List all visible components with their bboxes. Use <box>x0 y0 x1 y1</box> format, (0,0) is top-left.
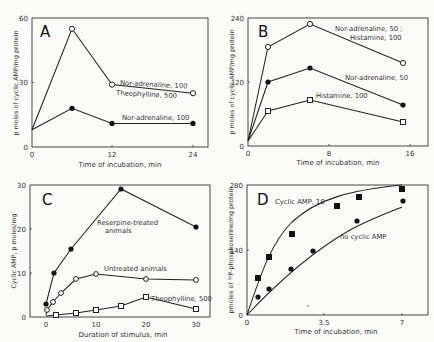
panel-b-xtick: 0 <box>246 150 250 158</box>
panel-b-xtick: 16 <box>406 150 415 158</box>
panel-c-xtick: 20 <box>142 321 151 329</box>
panel-d-ytick: 0 <box>239 312 243 320</box>
panel-c-annotation: Reserpine-treated <box>97 219 158 227</box>
panel-c-ytick: 10 <box>17 270 26 278</box>
panel-a-ylabel: p moles of cyclic AMP/mg protein <box>12 31 20 136</box>
panel-d-annotation: Cyclic AMP, 10 <box>275 198 325 206</box>
panel-c-letter: C <box>42 191 52 209</box>
figure: A 0 30 60 0 12 24 Time of incubation, mi… <box>0 0 434 342</box>
panel-c-series-reserpine <box>46 189 196 304</box>
panel-b-ytick: 0 <box>240 143 244 151</box>
panel-c-ytick: 0 <box>22 314 26 322</box>
panel-d-ylabel: pmoles of ³²P-phosphoserine/mg protein <box>227 187 235 314</box>
panel-c: C 0 10 20 30 0 10 20 30 Duration of stim… <box>10 182 212 339</box>
panel-d-series-no-cyclic-amp <box>247 207 402 315</box>
panel-a-ytick: 30 <box>19 79 28 87</box>
panel-c-xtick: 30 <box>192 321 201 329</box>
panel-a-xtick: 24 <box>189 151 198 159</box>
panel-a-annotation: Nor-adrenaline, 100 <box>122 114 189 122</box>
panel-b-ytick: 240 <box>231 15 244 23</box>
panel-c-annotation: Theophylline, 500 <box>150 295 212 303</box>
panel-d-letter: D <box>257 191 269 209</box>
panel-d-xtick: 7 <box>400 319 404 327</box>
panel-b-ylabel: p moles of cyclic AMP/mg protein <box>228 30 236 135</box>
panel-b-xtick: 8 <box>327 150 331 158</box>
panel-d-xlabel: Time of incubation, min <box>294 328 378 336</box>
panel-d-xtick: 3.5 <box>318 319 329 327</box>
panel-a-xlabel: Time of incubation, min <box>78 161 162 169</box>
panel-a-ytick: 0 <box>24 144 28 152</box>
panel-c-xlabel: Duration of stimulus, min <box>79 331 168 339</box>
panel-b-xlabel: Time of incubation, min <box>296 159 380 167</box>
panel-b-annotation: Histamine, 100 <box>350 34 402 42</box>
panel-c-xtick: 10 <box>92 321 101 329</box>
panel-a-letter: A <box>40 23 51 41</box>
panel-b-series-hist <box>248 100 403 141</box>
panel-b-annotation: Histamine, 100 <box>316 92 368 100</box>
panel-a-ytick: 60 <box>19 15 28 23</box>
panel-d: D 0 140 280 0 3.5 7 Time of incubation, … <box>227 182 428 336</box>
panel-d-annotation: no cyclic AMP <box>340 233 386 241</box>
panel-b-letter: B <box>258 23 268 41</box>
panel-c-ytick: 20 <box>17 226 26 234</box>
panel-c-annotation: animals <box>105 227 132 235</box>
panel-a-xtick: 12 <box>108 151 117 159</box>
panel-c-ytick: 30 <box>17 182 26 190</box>
panel-a: A 0 30 60 0 12 24 Time of incubation, mi… <box>12 15 208 169</box>
panel-c-annotation: Untreated animals <box>104 265 167 273</box>
panel-b-annotation: Nor-adrenaline, 50 <box>345 74 408 82</box>
panel-b: B 0 120 240 0 8 16 Time of incubation, m… <box>228 15 428 167</box>
panel-c-xtick: 0 <box>44 321 48 329</box>
panel-a-xtick: 0 <box>30 151 34 159</box>
panel-b-annotation: Nor-adrenaline, 50 ; <box>335 25 403 33</box>
panel-d-xtick: 0 <box>245 319 249 327</box>
panel-c-ylabel: Cyclic AMP, p moles/mg <box>10 213 18 288</box>
